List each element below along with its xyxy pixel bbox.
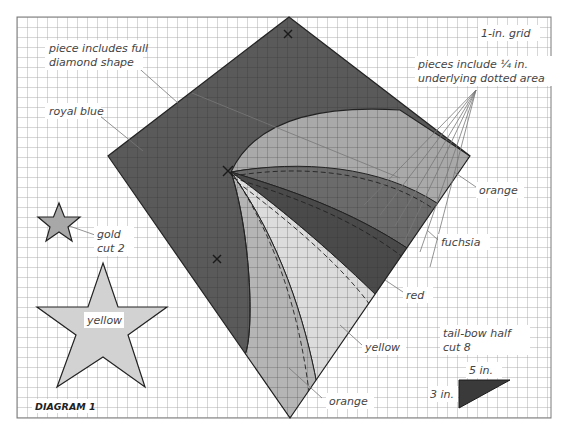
svg-text:pieces include ¼ in.: pieces include ¼ in. bbox=[417, 58, 528, 71]
svg-text:1-in. grid: 1-in. grid bbox=[481, 27, 532, 40]
label-gold: gold cut 2 bbox=[94, 226, 134, 256]
svg-text:orange: orange bbox=[329, 395, 368, 408]
svg-text:fuchsia: fuchsia bbox=[441, 236, 481, 249]
svg-text:red: red bbox=[406, 289, 425, 302]
svg-text:underlying dotted area: underlying dotted area bbox=[418, 72, 545, 85]
label-full-diamond: piece includes full diamond shape bbox=[45, 40, 148, 70]
svg-text:gold: gold bbox=[97, 228, 122, 241]
label-orange-bottom: orange bbox=[326, 393, 374, 409]
label-red: red bbox=[403, 287, 433, 303]
label-grid: 1-in. grid bbox=[478, 25, 540, 41]
label-yellow: yellow bbox=[362, 339, 406, 355]
diagram-title: DIAGRAM 1 bbox=[32, 399, 96, 413]
quilt-diagram: piece includes full diamond shape royal … bbox=[0, 0, 568, 438]
svg-text:5 in.: 5 in. bbox=[469, 364, 493, 377]
svg-text:3 in.: 3 in. bbox=[430, 388, 454, 401]
label-tail-width: 5 in. bbox=[466, 362, 502, 378]
label-fuchsia: fuchsia bbox=[438, 234, 490, 250]
label-seam-allowance: pieces include ¼ in. underlying dotted a… bbox=[415, 56, 553, 86]
svg-text:royal blue: royal blue bbox=[49, 105, 104, 118]
label-tail-bow: tail-bow half cut 8 bbox=[440, 325, 530, 355]
svg-text:diamond shape: diamond shape bbox=[49, 56, 134, 69]
svg-text:piece includes full: piece includes full bbox=[48, 42, 148, 55]
label-tail-height: 3 in. bbox=[428, 386, 458, 402]
label-yellow-star: yellow bbox=[84, 312, 124, 328]
svg-text:orange: orange bbox=[479, 184, 518, 197]
label-royal-blue: royal blue bbox=[45, 103, 104, 119]
svg-text:yellow: yellow bbox=[364, 341, 400, 354]
svg-text:DIAGRAM 1: DIAGRAM 1 bbox=[35, 401, 96, 412]
svg-text:cut 8: cut 8 bbox=[443, 341, 471, 354]
label-orange-top: orange bbox=[476, 182, 524, 198]
svg-text:tail-bow half: tail-bow half bbox=[443, 327, 513, 340]
svg-text:cut 2: cut 2 bbox=[97, 242, 125, 255]
svg-text:yellow: yellow bbox=[86, 314, 122, 327]
